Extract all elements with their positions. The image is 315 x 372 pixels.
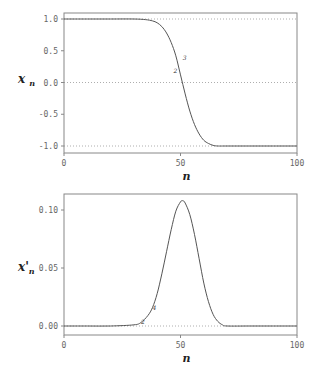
x-axis-label: n: [183, 352, 191, 365]
x-axis-label: n: [183, 170, 191, 183]
x-tick-label: 100: [290, 341, 305, 350]
y-tick-label: -1.0: [39, 142, 58, 151]
y-tick-label: 0.05: [39, 264, 58, 273]
curve-annotation: 2: [140, 318, 145, 325]
y-tick-label: 1.0: [44, 15, 59, 24]
y-tick-label: -0.5: [39, 110, 58, 119]
chart-canvas: 1.00.50.0-0.5-1.0050100nxn320.100.050.00…: [0, 0, 315, 372]
curve-annotation: 2: [173, 67, 178, 74]
y-tick-label: 0.10: [39, 206, 58, 215]
plot-frame: [64, 194, 297, 335]
y-tick-label: 0.5: [44, 47, 59, 56]
curve-annotation: 3: [183, 54, 187, 61]
x-tick-label: 50: [176, 159, 186, 168]
x-tick-label: 0: [62, 159, 67, 168]
x-tick-label: 100: [290, 159, 305, 168]
y-axis-label: xn: [17, 72, 35, 88]
y-tick-label: 0.00: [39, 322, 58, 331]
x-tick-label: 50: [176, 341, 186, 350]
y-tick-label: 0.0: [44, 79, 59, 88]
data-curve: [64, 201, 297, 327]
curve-annotation: 4: [152, 304, 157, 311]
plot-frame: [64, 13, 297, 153]
y-axis-label: x'n: [17, 260, 35, 276]
x-tick-label: 0: [62, 341, 67, 350]
